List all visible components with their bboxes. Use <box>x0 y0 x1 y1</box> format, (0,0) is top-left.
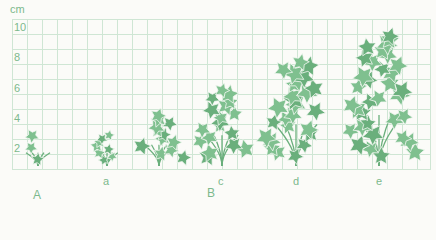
leaf-icon <box>25 130 39 144</box>
plant-label: c <box>218 175 224 187</box>
plant-c <box>193 83 254 166</box>
plant-label: d <box>293 175 299 187</box>
plant-label: a <box>103 175 109 187</box>
leaf-icon <box>306 102 325 121</box>
plant-d <box>256 54 325 166</box>
leaf-icon <box>358 38 376 56</box>
plant-A <box>25 130 50 166</box>
leaf-icon <box>300 120 319 140</box>
group-label: B <box>207 186 215 200</box>
group-label: A <box>33 188 41 202</box>
plant-b <box>134 108 192 166</box>
leaf-icon <box>134 137 151 155</box>
leaf-icon <box>266 114 282 131</box>
leaf-icon <box>177 150 192 166</box>
plant-a <box>90 130 118 166</box>
leaf-icon <box>342 123 359 140</box>
plant-e <box>342 27 425 166</box>
leaf-icon <box>104 130 114 141</box>
leaf-icon <box>288 148 304 164</box>
leaf-icon <box>25 142 38 154</box>
plant-label: e <box>376 175 382 187</box>
leaf-icon <box>224 125 240 141</box>
